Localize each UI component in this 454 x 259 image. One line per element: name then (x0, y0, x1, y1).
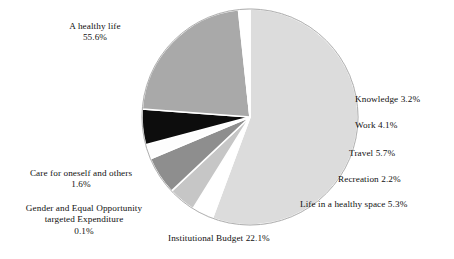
slice-label-gender-and-equal-opportunity: Gender and Equal Opportunity targeted Ex… (8, 203, 160, 237)
slice-label-a-healthy-life: A healthy life 55.6% (30, 21, 160, 44)
slice-label-travel: Travel 5.7% (349, 148, 454, 159)
slice-label-recreation: Recreation 2.2% (338, 174, 454, 185)
slice-label-work: Work 4.1% (355, 120, 454, 131)
slice-label-care-for-oneself-and-others: Care for oneself and others 1.6% (8, 168, 154, 191)
pie-chart: A healthy life 55.6% Knowledge 3.2% Work… (0, 0, 454, 259)
slice-label-knowledge: Knowledge 3.2% (355, 94, 454, 105)
slice-label-institutional-budget: Institutional Budget 22.1% (168, 233, 334, 244)
slice-label-life-in-a-healthy-space: Life in a healthy space 5.3% (300, 199, 454, 210)
